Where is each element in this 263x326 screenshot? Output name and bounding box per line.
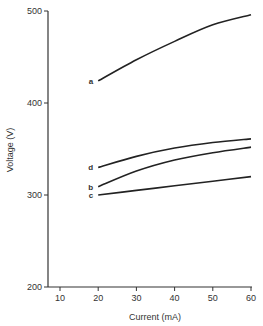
y-tick-label: 200 bbox=[27, 282, 42, 292]
x-tick-label: 40 bbox=[170, 293, 180, 303]
x-tick-label: 30 bbox=[131, 293, 141, 303]
x-tick-label: 10 bbox=[55, 293, 65, 303]
chart-canvas: 200300400500102030405060 abcd Current (m… bbox=[0, 0, 263, 326]
series-label-c: c bbox=[89, 191, 94, 200]
x-tick-label: 20 bbox=[93, 293, 103, 303]
x-tick-label: 60 bbox=[246, 293, 256, 303]
x-tick-label: 50 bbox=[208, 293, 218, 303]
series-line-d bbox=[98, 139, 251, 168]
data-lines: abcd bbox=[88, 15, 251, 200]
series-label-d: d bbox=[88, 163, 93, 172]
y-axis-label: Voltage (V) bbox=[5, 128, 15, 173]
series-line-a bbox=[98, 15, 251, 81]
series-line-b bbox=[98, 147, 251, 187]
y-tick-label: 500 bbox=[27, 6, 42, 16]
series-line-c bbox=[98, 177, 251, 195]
y-tick-label: 400 bbox=[27, 98, 42, 108]
voltage-current-chart: 200300400500102030405060 abcd Current (m… bbox=[0, 0, 263, 326]
x-axis-label: Current (mA) bbox=[129, 312, 181, 322]
series-label-a: a bbox=[89, 77, 94, 86]
y-tick-label: 300 bbox=[27, 190, 42, 200]
